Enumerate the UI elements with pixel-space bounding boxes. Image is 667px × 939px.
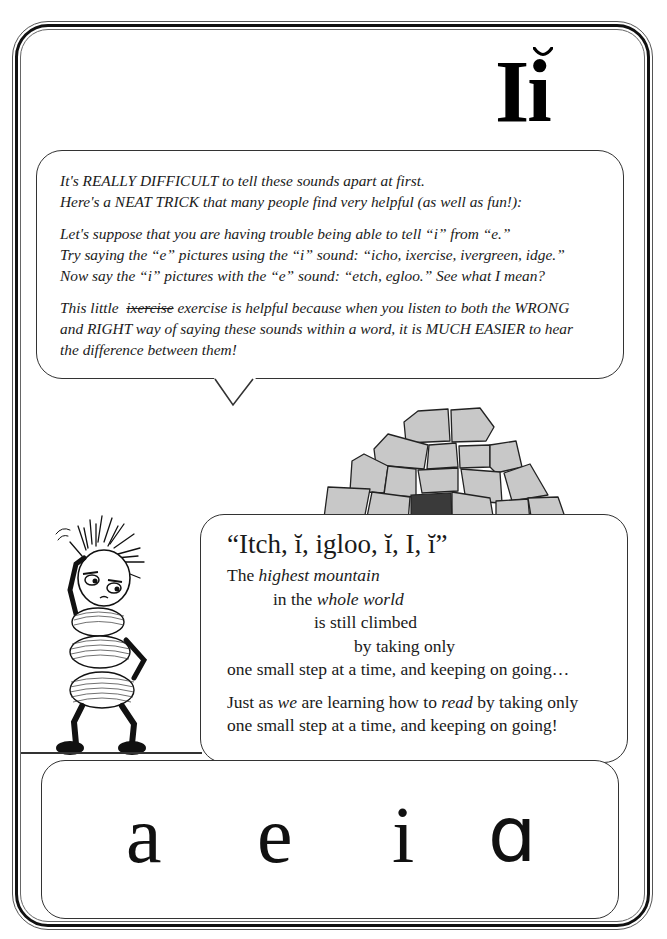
poem-italic-run: highest mountain [259,565,380,585]
intro-line: Let's suppose that you are having troubl… [60,225,510,242]
poem-line-7: one small step at a time, and keeping on… [227,714,627,738]
intro-line: the difference between them! [60,341,237,358]
intro-line: Here's a NEAT TRICK that many people fin… [60,193,522,210]
speech-bubble-tail [214,377,256,407]
poem-line-1: The highest mountain [227,564,627,588]
intro-text: It's REALLY DIFFICULT to tell these soun… [60,170,620,371]
ground-line [21,752,202,754]
intro-paragraph-1: It's REALLY DIFFICULT to tell these soun… [60,170,620,212]
chant-text: “Itch, ĭ, igloo, ĭ, I, ĭ” [227,525,447,563]
intro-line: Try saying the “e” pictures using the “i… [60,246,565,263]
intro-paragraph-3: This little ixercise exercise is helpful… [60,297,620,360]
intro-line: and RIGHT way of saying these sounds wit… [60,320,573,337]
intro-line-suffix: exercise is helpful because when you lis… [174,299,570,316]
poem-line-4: by taking only [227,635,627,659]
poem-text-run: are learning how to [297,692,441,712]
title-letter-upper: I [495,43,527,140]
poem-text-run: in the [273,589,317,609]
poem-text-run: The [227,565,259,585]
letter-a-serif: a [126,785,162,885]
letter-a-script: ɑ [488,785,536,885]
confused-bug-character [48,512,166,756]
struck-word: ixercise [126,299,173,316]
poem-line-2: in the whole world [227,588,627,612]
poem-stanza-gap [227,682,627,691]
intro-paragraph-2: Let's suppose that you are having troubl… [60,223,620,286]
poem-line-5: one small step at a time, and keeping on… [227,658,627,682]
poem-text: The highest mountain in the whole world … [227,564,627,738]
intro-line: It's REALLY DIFFICULT to tell these soun… [60,172,425,189]
poem-italic-run: read [441,692,472,712]
intro-line: Now say the “i” pictures with the “e” so… [60,267,545,284]
intro-line-prefix: This little [60,299,122,316]
poem-italic-run: whole world [317,589,404,609]
breve-icon [533,47,553,59]
poem-italic-run: we [278,692,297,712]
igloo-illustration [318,405,568,523]
poem-line-6: Just as we are learning how to read by t… [227,691,627,715]
poem-line-3: is still climbed [227,611,627,635]
letter-i: i [392,785,414,885]
letter-e: e [257,785,293,885]
poem-text-run: Just as [227,692,278,712]
poem-text-run: by taking only [473,692,578,712]
